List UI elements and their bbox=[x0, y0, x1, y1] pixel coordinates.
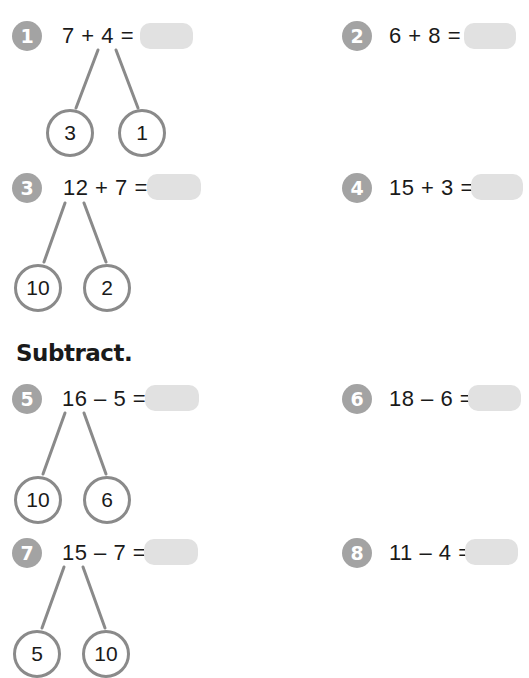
bond-part-circle: 5 bbox=[13, 630, 61, 678]
answer-input[interactable] bbox=[147, 174, 201, 200]
bond-part-circle: 1 bbox=[118, 109, 166, 157]
bond-part-circle: 10 bbox=[14, 264, 62, 312]
problem-number-badge: 2 bbox=[342, 21, 372, 51]
answer-input[interactable] bbox=[144, 539, 198, 565]
equation: 12 + 7 = bbox=[63, 175, 148, 201]
bond-part-circle: 3 bbox=[46, 109, 94, 157]
answer-input[interactable] bbox=[465, 539, 518, 565]
problem-number-badge: 8 bbox=[342, 538, 372, 568]
problem-number-badge: 3 bbox=[12, 173, 42, 203]
answer-input[interactable] bbox=[464, 23, 516, 49]
equation: 11 – 4 = bbox=[389, 540, 472, 566]
equation: 7 + 4 = bbox=[62, 23, 134, 49]
bond-part-circle: 6 bbox=[83, 476, 131, 524]
problem-number-badge: 4 bbox=[342, 173, 372, 203]
answer-input[interactable] bbox=[145, 385, 199, 411]
bond-part-circle: 10 bbox=[14, 476, 62, 524]
answer-input[interactable] bbox=[468, 385, 521, 411]
bond-part-circle: 10 bbox=[82, 630, 130, 678]
equation: 6 + 8 = bbox=[389, 23, 461, 49]
problem-number-badge: 1 bbox=[12, 21, 42, 51]
answer-input[interactable] bbox=[471, 174, 523, 200]
problem-number-badge: 7 bbox=[12, 538, 42, 568]
bond-part-circle: 2 bbox=[83, 264, 131, 312]
equation: 18 – 6 = bbox=[389, 386, 473, 412]
equation: 15 – 7 = bbox=[62, 540, 146, 566]
equation: 16 – 5 = bbox=[62, 386, 146, 412]
equation: 15 + 3 = bbox=[389, 175, 474, 201]
problem-number-badge: 6 bbox=[342, 384, 372, 414]
problem-number-badge: 5 bbox=[12, 384, 42, 414]
section-heading-subtract: Subtract. bbox=[16, 340, 132, 366]
answer-input[interactable] bbox=[140, 23, 193, 49]
